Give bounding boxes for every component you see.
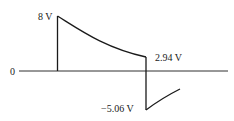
decay-curve xyxy=(58,16,147,57)
recovery-curve xyxy=(146,89,180,110)
waveform-diagram: 0 8 V 2.94 V −5.06 V xyxy=(0,0,234,121)
peak-voltage-label: 8 V xyxy=(38,11,53,22)
axis-zero-label: 0 xyxy=(10,66,15,77)
decay-end-voltage-label: 2.94 V xyxy=(155,52,183,63)
negative-peak-voltage-label: −5.06 V xyxy=(101,103,134,114)
